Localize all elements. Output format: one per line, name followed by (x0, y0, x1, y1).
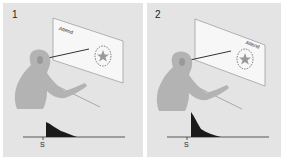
panel-2: 2 Attend S (147, 3, 281, 157)
response-histogram (191, 112, 221, 137)
panel-2-illustration (147, 3, 281, 157)
panel-1: 1 Attend S (3, 3, 143, 157)
response-histogram (46, 122, 77, 137)
stimulus-axis-label: S (40, 141, 45, 148)
stimulus-axis-label: S (184, 141, 189, 148)
panel-1-illustration (3, 3, 143, 157)
screen (195, 19, 265, 86)
